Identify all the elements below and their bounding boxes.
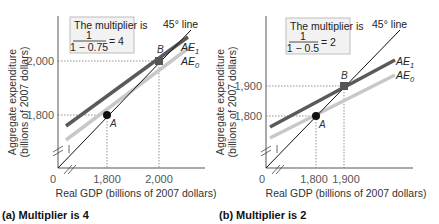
y-tick-label: 2,000 (26, 55, 54, 67)
x-tick-label: 1,800 (300, 173, 328, 185)
annotation-denominator: 1 − 0.5 (287, 42, 320, 54)
ae0-label: AE0 (395, 69, 415, 84)
y-axis-label-line1: Aggregate expenditure (214, 49, 226, 155)
annotation-title: The multiplier is (74, 19, 148, 31)
x-axis-label: Real GDP (billions of 2007 dollars) (266, 187, 427, 199)
y-tick-label: 1,900 (234, 80, 262, 92)
origin-label: 0 (50, 173, 56, 185)
point-a-label: A (109, 118, 117, 129)
x-tick-label: 1,800 (93, 173, 121, 185)
y-axis-label-line1: Aggregate expenditure (6, 49, 18, 155)
annotation-result: = 4 (109, 35, 124, 47)
panel-b: Aggregate expenditure (billions of 2007 … (214, 16, 426, 221)
point-b-marker (340, 82, 348, 90)
point-b-label: B (341, 70, 348, 81)
x-axis-break-marks (64, 165, 76, 174)
point-a-label: A (318, 119, 326, 130)
y-axis-label-line2: (billions of 2007 dollars) (226, 47, 238, 158)
x-tick-label: 2,000 (145, 173, 173, 185)
panel-b-caption: (b) Multiplier is 2 (219, 209, 306, 221)
ae1-line (270, 60, 395, 127)
point-b-label: B (157, 44, 164, 55)
ae0-label: AE0 (180, 55, 200, 70)
y-tick-label: 1,800 (234, 110, 262, 122)
y-tick-label: 1,800 (26, 109, 54, 121)
origin-label: 0 (259, 173, 265, 185)
line-45-label: 45° line (163, 18, 198, 30)
x-axis-label: Real GDP (billions of 2007 dollars) (56, 187, 217, 199)
annotation-result: = 2 (321, 36, 336, 48)
panel-a: Aggregate expenditure (billions of 2007 … (2, 16, 216, 221)
ae1-label: AE1 (395, 55, 414, 70)
chart-figure: Aggregate expenditure (billions of 2007 … (0, 0, 439, 224)
x-axis-break-marks (272, 165, 284, 174)
x-tick-label: 1,900 (332, 173, 360, 185)
ae0-line (270, 75, 395, 138)
annotation-denominator: 1 − 0.75 (70, 41, 108, 53)
annotation-numerator: 1 (86, 29, 92, 41)
panel-a-caption: (a) Multiplier is 4 (2, 209, 90, 221)
line-45-label: 45° line (372, 18, 407, 30)
point-b-marker (155, 57, 163, 65)
annotation-numerator: 1 (300, 30, 306, 42)
